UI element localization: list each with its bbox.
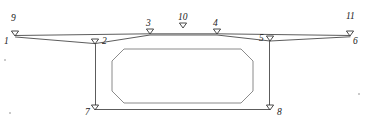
node-label-5: 5	[259, 34, 264, 44]
edge-lower-left-splay	[16, 37, 96, 44]
structural-node-diagram: 1234567891011	[0, 0, 366, 126]
edge-lower-mid-chord	[95, 35, 270, 44]
node-label-10: 10	[178, 13, 188, 23]
node-label-3: 3	[146, 19, 151, 29]
scan-speck-2	[9, 112, 11, 114]
node-label-4: 4	[213, 19, 218, 29]
node-marker-layer	[11, 23, 353, 110]
node-marker-10	[179, 23, 186, 28]
edge-lower-right-splay	[270, 37, 350, 41]
node-label-8: 8	[277, 108, 282, 118]
node-label-6: 6	[353, 37, 358, 47]
node-marker-4	[213, 29, 220, 34]
scan-speck-1	[4, 59, 6, 61]
scan-speck-3	[358, 93, 360, 95]
node-label-11: 11	[346, 12, 355, 22]
node-label-9: 9	[11, 14, 16, 24]
node-marker-5	[266, 36, 273, 41]
node-label-1: 1	[4, 37, 9, 47]
node-marker-3	[146, 29, 153, 34]
node-label-7: 7	[85, 108, 90, 118]
inner-panel-outline	[112, 49, 253, 103]
node-label-2: 2	[102, 37, 107, 47]
